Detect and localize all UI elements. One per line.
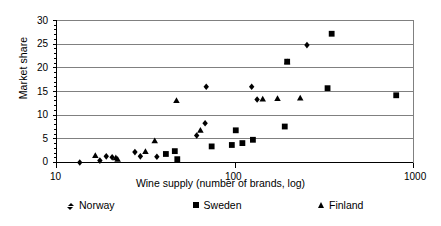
point-finland xyxy=(142,148,149,154)
chart-legend: Norway Sweden Finland xyxy=(0,198,441,214)
triangle-marker-icon xyxy=(318,202,324,208)
point-norway xyxy=(204,83,209,90)
legend-label-norway: Norway xyxy=(79,199,115,211)
point-sweden xyxy=(282,124,288,130)
point-finland xyxy=(297,95,304,101)
square-marker-icon xyxy=(193,202,199,208)
point-sweden xyxy=(229,142,235,148)
data-points xyxy=(77,31,399,166)
series-sweden xyxy=(163,31,399,162)
point-finland xyxy=(173,97,180,103)
point-norway xyxy=(132,149,137,156)
point-norway xyxy=(202,120,207,127)
point-finland xyxy=(259,96,266,102)
legend-label-finland: Finland xyxy=(329,199,363,211)
gridlines xyxy=(57,21,414,163)
point-finland xyxy=(92,152,99,158)
legend-entry-sweden: Sweden xyxy=(193,198,242,212)
point-sweden xyxy=(233,127,239,133)
point-sweden xyxy=(250,137,256,143)
series-norway xyxy=(77,42,310,166)
point-norway xyxy=(154,154,159,161)
diamond-marker-icon xyxy=(68,200,74,206)
point-norway xyxy=(254,96,259,103)
point-sweden xyxy=(325,85,331,91)
series-finland xyxy=(92,58,303,161)
point-norway xyxy=(304,42,309,49)
point-sweden xyxy=(239,140,245,146)
scatter-chart: Market share 30 25 20 15 10 5 0 10 100 1… xyxy=(0,0,441,226)
point-norway xyxy=(194,132,199,139)
point-sweden xyxy=(163,151,169,157)
legend-entry-finland: Finland xyxy=(318,198,363,212)
legend-label-sweden: Sweden xyxy=(204,199,242,211)
point-sweden xyxy=(209,144,215,150)
point-sweden xyxy=(172,148,178,154)
point-sweden xyxy=(174,156,180,162)
point-norway xyxy=(249,83,254,90)
point-sweden xyxy=(329,31,335,37)
point-norway xyxy=(104,153,109,160)
point-finland xyxy=(151,137,158,143)
point-sweden xyxy=(393,92,399,98)
point-finland xyxy=(274,95,281,101)
plot-area xyxy=(0,0,441,226)
point-finland xyxy=(197,127,204,133)
legend-entry-norway: Norway xyxy=(68,198,115,212)
point-norway xyxy=(77,159,82,166)
